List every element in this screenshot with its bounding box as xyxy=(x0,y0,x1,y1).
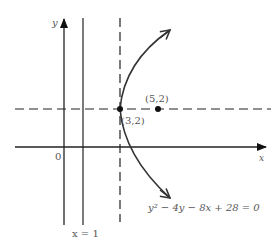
y-axis-label: y xyxy=(51,17,58,28)
origin-label: 0 xyxy=(55,151,61,162)
x-axis-label: x xyxy=(259,153,264,163)
vertex-point xyxy=(117,106,123,112)
focus-point xyxy=(155,106,161,112)
parabola-upper-arrow-icon xyxy=(160,30,170,38)
vertex-label: (3,2) xyxy=(121,115,145,126)
parabola-diagram: y x 0 x = 1 (3,2) (5,2) y² − 4y − 8x + 2… xyxy=(0,0,279,246)
parabola-curve xyxy=(120,30,170,198)
parabola-lower-arrow-icon xyxy=(160,190,170,198)
directrix-label: x = 1 xyxy=(72,228,99,239)
focus-label: (5,2) xyxy=(145,93,169,104)
equation-label: y² − 4y − 8x + 28 = 0 xyxy=(147,202,260,213)
